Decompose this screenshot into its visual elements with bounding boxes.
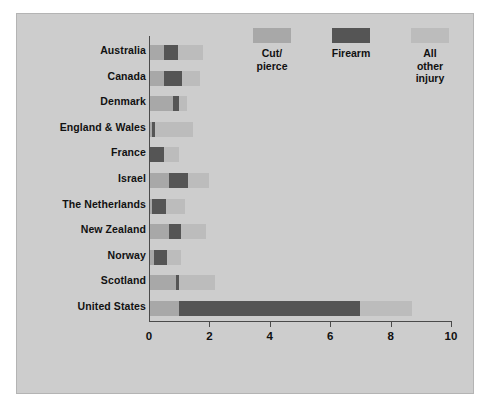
stacked-bar xyxy=(149,96,187,111)
category-label: Israel xyxy=(0,172,146,184)
bar-segment xyxy=(169,173,189,188)
category-label: Norway xyxy=(0,249,146,261)
stacked-bar xyxy=(149,122,193,137)
bar-segment xyxy=(149,173,169,188)
category-label: England & Wales xyxy=(0,121,146,133)
stacked-bar xyxy=(149,71,200,86)
stacked-bar xyxy=(149,199,185,214)
bar-segment xyxy=(155,122,193,137)
x-tick-label: 4 xyxy=(255,330,285,342)
bar-segment xyxy=(360,301,411,316)
bar-segment xyxy=(166,199,186,214)
bar-row: The Netherlands xyxy=(17,199,473,214)
x-tick-label: 0 xyxy=(134,330,164,342)
bar-segment xyxy=(188,173,209,188)
bar-segment xyxy=(182,71,200,86)
plot-area: Cut/ pierceFirearmAll other injury Austr… xyxy=(17,14,473,393)
bar-segment xyxy=(178,45,204,60)
stacked-bar xyxy=(149,301,412,316)
bar-row: Denmark xyxy=(17,96,473,111)
category-label: United States xyxy=(0,300,146,312)
bar-segment xyxy=(164,147,179,162)
bar-row: New Zealand xyxy=(17,224,473,239)
category-label: France xyxy=(0,146,146,158)
stacked-bar xyxy=(149,147,179,162)
x-tick-label: 8 xyxy=(376,330,406,342)
stacked-bar xyxy=(149,275,215,290)
chart-figure: Cut/ pierceFirearmAll other injury Austr… xyxy=(16,13,474,394)
bar-segment xyxy=(154,250,168,265)
x-tick-label: 6 xyxy=(315,330,345,342)
stacked-bar xyxy=(149,45,203,60)
bar-row: France xyxy=(17,147,473,162)
x-tick-mark xyxy=(451,321,452,327)
x-tick-mark xyxy=(391,321,392,327)
bar-row: Scotland xyxy=(17,275,473,290)
bar-segment xyxy=(179,275,215,290)
y-axis-line xyxy=(149,36,150,321)
bar-row: Israel xyxy=(17,173,473,188)
bar-segment xyxy=(179,96,187,111)
legend-swatch xyxy=(411,28,449,43)
bar-segment xyxy=(149,45,164,60)
bar-segment xyxy=(149,301,179,316)
legend-swatch xyxy=(332,28,370,43)
stacked-bar xyxy=(149,250,181,265)
bar-segment xyxy=(179,301,360,316)
bar-row: England & Wales xyxy=(17,122,473,137)
x-tick-label: 2 xyxy=(194,330,224,342)
category-label: Canada xyxy=(0,70,146,82)
x-axis-line xyxy=(149,321,451,322)
bar-segment xyxy=(164,45,178,60)
category-label: New Zealand xyxy=(0,223,146,235)
x-tick-label: 10 xyxy=(436,330,466,342)
bar-segment xyxy=(181,224,207,239)
bar-segment xyxy=(164,71,182,86)
bar-segment xyxy=(167,250,181,265)
category-label: Scotland xyxy=(0,274,146,286)
x-tick-mark xyxy=(209,321,210,327)
bar-row: Norway xyxy=(17,250,473,265)
stacked-bar xyxy=(149,173,209,188)
category-label: The Netherlands xyxy=(0,198,146,210)
bar-row: Canada xyxy=(17,71,473,86)
x-tick-mark xyxy=(330,321,331,327)
category-label: Australia xyxy=(0,44,146,56)
bar-segment xyxy=(149,96,173,111)
bar-row: Australia xyxy=(17,45,473,60)
bar-segment xyxy=(169,224,181,239)
stacked-bar xyxy=(149,224,206,239)
bar-row: United States xyxy=(17,301,473,316)
legend-swatch xyxy=(253,28,291,43)
x-tick-mark xyxy=(270,321,271,327)
bar-segment xyxy=(149,275,176,290)
category-label: Denmark xyxy=(0,95,146,107)
bar-segment xyxy=(152,199,166,214)
bar-segment xyxy=(149,147,164,162)
bar-segment xyxy=(149,224,169,239)
bar-segment xyxy=(149,71,164,86)
